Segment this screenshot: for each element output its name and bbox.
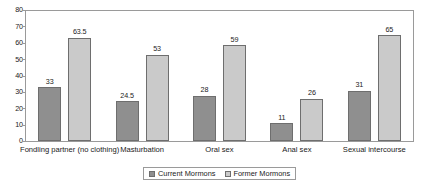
bar-value-label: 53 — [138, 45, 177, 52]
bar-former-mormons — [146, 55, 169, 141]
y-axis-tick-label: 10 — [1, 121, 23, 128]
bar-value-label: 28 — [185, 86, 224, 93]
y-axis-tick-label: 20 — [1, 105, 23, 112]
bar-value-label: 33 — [30, 78, 69, 85]
bar-former-mormons — [378, 35, 401, 141]
legend-label: Former Mormons — [234, 170, 291, 177]
bar-current-mormons — [270, 123, 293, 141]
legend-item: Current Mormons — [149, 170, 216, 177]
bar-former-mormons — [300, 99, 323, 141]
bar-former-mormons — [68, 38, 91, 141]
y-axis-tick-label: 40 — [1, 72, 23, 79]
bar-value-label: 59 — [215, 36, 254, 43]
y-axis-tick-label: 50 — [1, 56, 23, 63]
legend-swatch-icon — [149, 171, 155, 177]
x-axis-category-label: Anal sex — [252, 145, 341, 154]
bar-value-label: 63.5 — [60, 28, 99, 35]
legend-item: Former Mormons — [225, 170, 291, 177]
bar-current-mormons — [193, 96, 216, 142]
bar-value-label: 31 — [340, 81, 379, 88]
bar-former-mormons — [223, 45, 246, 141]
bar-current-mormons — [38, 87, 61, 141]
bar-current-mormons — [348, 91, 371, 141]
bar-value-label: 11 — [262, 114, 301, 121]
y-axis-tick-label: 70 — [1, 23, 23, 30]
bar-value-label: 65 — [370, 26, 409, 33]
x-axis-category-label: Oral sex — [175, 145, 264, 154]
bar-chart: 80706050403020100 3363.524.5532859112631… — [0, 0, 426, 195]
legend-swatch-icon — [225, 171, 231, 177]
bar-current-mormons — [116, 101, 139, 141]
y-axis: 80706050403020100 — [0, 0, 23, 142]
plot-area: 3363.524.553285911263165 — [26, 11, 413, 141]
y-axis-tick-label: 30 — [1, 88, 23, 95]
y-axis-tick-label: 60 — [1, 39, 23, 46]
y-axis-tick-label: 80 — [1, 6, 23, 13]
chart-legend: Current MormonsFormer Mormons — [143, 167, 296, 180]
x-axis-category-label: Sexual intercourse — [330, 145, 419, 154]
legend-label: Current Mormons — [158, 170, 216, 177]
y-axis-tick-label: 0 — [1, 137, 23, 144]
x-axis-category-label: Fondling partner (no clothing) — [20, 145, 109, 154]
x-axis-category-label: Masturbation — [97, 145, 186, 154]
bar-value-label: 24.5 — [108, 92, 147, 99]
bar-value-label: 26 — [292, 89, 331, 96]
